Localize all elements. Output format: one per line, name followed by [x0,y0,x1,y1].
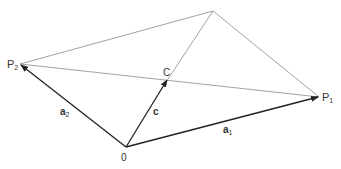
label-a2-subscript: 2 [66,111,70,118]
line-top-vertex-to-p1 [213,11,319,97]
vector-a1 [126,97,318,147]
line-p2-to-top-vertex [20,11,213,64]
label-point-c: C [163,67,170,78]
vector-c [126,80,167,147]
label-p2: P2 [7,58,18,71]
vector-parallelogram-diagram: P2 P1 C 0 a2 a1 c [0,0,341,169]
label-origin: 0 [121,152,127,163]
label-p1-subscript: 1 [329,97,333,104]
vector-a2 [21,65,126,147]
label-p2-subscript: 2 [14,64,18,71]
label-a1-subscript: 1 [229,129,233,136]
label-a1: a1 [223,124,233,136]
label-vector-c: c [153,106,159,117]
label-a2: a2 [60,106,70,118]
label-p1: P1 [322,91,333,104]
